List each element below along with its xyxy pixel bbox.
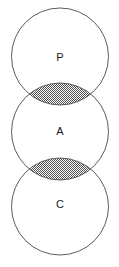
set-label-p: P	[56, 51, 64, 63]
set-label-c: C	[56, 198, 64, 210]
set-label-a: A	[56, 125, 64, 137]
venn-diagram: P A C	[0, 0, 119, 267]
venn-diagram-canvas: P A C	[0, 0, 119, 267]
